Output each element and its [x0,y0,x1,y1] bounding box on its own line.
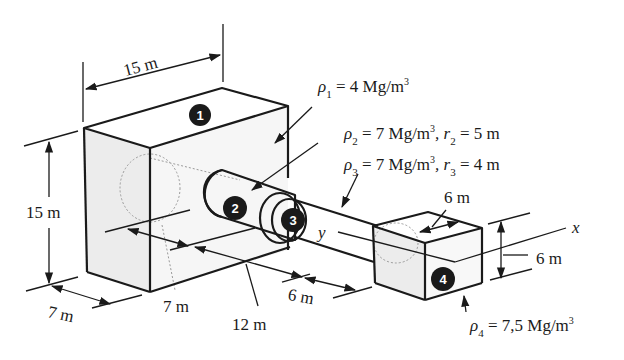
svg-text:7 m: 7 m [163,297,189,316]
label-rho3: ρ3 = 7 Mg/m3, r3 = 4 m [343,154,500,178]
svg-text:ρ1 = 4 Mg/m3: ρ1 = 4 Mg/m3 [317,76,409,100]
dim-block-height: 15 m [24,131,78,291]
svg-text:1: 1 [196,108,203,123]
svg-text:ρ4 = 7,5 Mg/m3: ρ4 = 7,5 Mg/m3 [469,315,574,339]
label-rho4: ρ4 = 7,5 Mg/m3 [469,315,574,339]
composite-body-diagram: x y 1 2 3 4 15 m 15 m [0,0,624,360]
label-rho2: ρ2 = 7 Mg/m3, r2 = 5 m [343,123,500,147]
dim-rod: 6 m [282,274,372,308]
svg-text:6 m: 6 m [286,285,315,308]
svg-text:3: 3 [289,213,296,228]
y-axis-label: y [316,223,326,242]
svg-text:7 m: 7 m [46,302,75,326]
badge-3: 3 [281,208,305,232]
svg-text:15 m: 15 m [121,53,159,80]
dim-cube-height: 6 m [488,213,562,280]
badge-4: 4 [431,267,455,291]
svg-text:6 m: 6 m [536,249,562,268]
svg-text:12 m: 12 m [232,315,266,334]
svg-text:6 m: 6 m [444,188,470,207]
block-1 [84,88,290,292]
svg-text:4: 4 [439,272,447,287]
badge-1: 1 [189,104,211,126]
svg-text:15 m: 15 m [26,203,60,222]
dim-cube-depth: 6 m [420,188,470,232]
label-rho1: ρ1 = 4 Mg/m3 [317,76,409,100]
svg-text:ρ2 = 7 Mg/m3, r2 = 5 m: ρ2 = 7 Mg/m3, r2 = 5 m [343,123,500,147]
svg-text:2: 2 [231,201,238,216]
x-axis-label: x [571,218,580,237]
badge-2: 2 [223,196,247,220]
cube-4 [373,212,482,300]
svg-text:ρ3 = 7 Mg/m3, r3 = 4 m: ρ3 = 7 Mg/m3, r3 = 4 m [343,154,500,178]
dim-block-depth-left: 7 m [46,286,142,326]
